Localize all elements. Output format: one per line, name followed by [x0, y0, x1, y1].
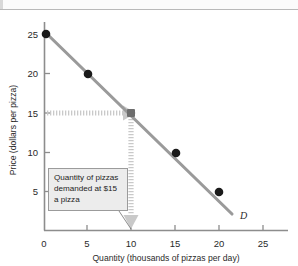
y-tick-label-15: 15	[27, 108, 38, 119]
data-point-1-25	[42, 30, 51, 39]
x-tick-label-0: 0	[41, 238, 46, 249]
y-tick-label-20: 20	[27, 68, 38, 79]
demand-curve-chart: 25 20 15 10 5 0 5 10 15 20 25 Price (dol…	[0, 0, 298, 266]
x-tick-label-20: 20	[214, 238, 225, 249]
x-tick-label-15: 15	[170, 238, 181, 249]
figure-canvas: 25 20 15 10 5 0 5 10 15 20 25 Price (dol…	[0, 0, 298, 266]
data-point-5-20	[84, 70, 93, 79]
y-axis-title: Price (dollars per pizza)	[8, 85, 18, 175]
x-axis-title: Quantity (thousands of pizzas per day)	[92, 253, 239, 263]
x-axis-ticks	[87, 225, 263, 231]
data-point-20-5	[215, 188, 224, 197]
x-tick-label-10: 10	[126, 238, 137, 249]
y-tick-label-5: 5	[33, 186, 38, 197]
y-tick-label-25: 25	[27, 29, 38, 40]
callout-text: Quantity of pizzas demanded at $15 a piz…	[54, 173, 118, 204]
callout-box: Quantity of pizzas demanded at $15 a piz…	[48, 168, 128, 211]
data-point-15-10	[172, 149, 181, 158]
x-tick-label-25: 25	[258, 238, 269, 249]
demand-curve-label: D	[239, 210, 248, 221]
x-tick-label-5: 5	[84, 238, 89, 249]
data-point-10-15-highlight	[127, 109, 135, 117]
y-tick-label-10: 10	[27, 147, 38, 158]
